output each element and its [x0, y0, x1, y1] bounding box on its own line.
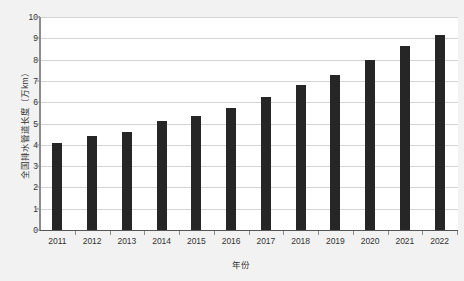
y-tick-mark — [35, 17, 39, 18]
x-tick-mark — [353, 231, 354, 235]
x-tick-label: 2014 — [152, 236, 171, 246]
bar — [435, 35, 445, 230]
y-tick-mark — [35, 144, 39, 145]
y-tick-mark — [35, 102, 39, 103]
bar — [87, 136, 97, 230]
x-tick-mark — [422, 231, 423, 235]
bars-layer — [40, 17, 457, 230]
y-tick-mark — [35, 187, 39, 188]
bar — [365, 60, 375, 230]
x-tick-label: 2013 — [117, 236, 136, 246]
bar — [226, 108, 236, 230]
x-tick-mark — [457, 231, 458, 235]
x-tick-label: 2018 — [291, 236, 310, 246]
x-tick-mark — [388, 231, 389, 235]
bar — [122, 132, 132, 230]
x-tick-label: 2022 — [430, 236, 449, 246]
bar-chart-figure: 全国排水管道长度（万km） 012345678910 2011201220132… — [0, 0, 464, 281]
x-tick-mark — [179, 231, 180, 235]
bar — [330, 75, 340, 230]
x-axis-tick-labels: 2011201220132014201520162017201820192020… — [40, 236, 457, 250]
x-tick-label: 2012 — [83, 236, 102, 246]
x-tick-label: 2019 — [326, 236, 345, 246]
x-tick-label: 2016 — [222, 236, 241, 246]
x-tick-mark — [144, 231, 145, 235]
x-tick-label: 2011 — [48, 236, 66, 246]
bar — [157, 121, 167, 230]
bar — [191, 116, 201, 230]
y-tick-mark — [35, 123, 39, 124]
y-tick-mark — [35, 80, 39, 81]
y-tick-mark — [35, 230, 39, 231]
x-tick-label: 2017 — [256, 236, 275, 246]
bar — [52, 143, 62, 230]
x-tick-mark — [75, 231, 76, 235]
y-tick-mark — [35, 208, 39, 209]
x-tick-mark — [283, 231, 284, 235]
x-tick-mark — [214, 231, 215, 235]
x-axis-title: 年份 — [0, 258, 464, 270]
x-tick-mark — [110, 231, 111, 235]
y-tick-mark — [35, 38, 39, 39]
x-tick-label: 2021 — [395, 236, 414, 246]
x-tick-mark — [318, 231, 319, 235]
bar — [261, 97, 271, 230]
y-tick-mark — [35, 166, 39, 167]
bar — [400, 46, 410, 230]
x-tick-mark — [249, 231, 250, 235]
y-tick-mark — [35, 59, 39, 60]
bar — [296, 85, 306, 230]
x-tick-label: 2015 — [187, 236, 206, 246]
x-tick-label: 2020 — [361, 236, 380, 246]
